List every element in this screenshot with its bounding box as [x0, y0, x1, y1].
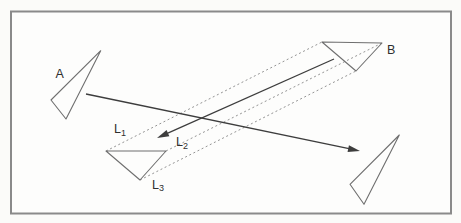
figure-frame [11, 12, 451, 214]
label-L2-text: L [176, 135, 183, 149]
label-L3-subscript: 3 [159, 183, 164, 193]
label-L1-subscript: 1 [121, 128, 126, 138]
label-B-text: B [387, 43, 395, 57]
label-A-text: A [56, 67, 65, 81]
label-L2-subscript: 2 [183, 141, 188, 151]
figure-page: ABL1L2L3 [0, 0, 461, 223]
diagram-canvas: ABL1L2L3 [0, 0, 461, 223]
label-L3-text: L [152, 178, 159, 192]
label-A: A [56, 67, 65, 81]
label-B: B [387, 43, 395, 57]
label-L1-text: L [114, 122, 121, 136]
